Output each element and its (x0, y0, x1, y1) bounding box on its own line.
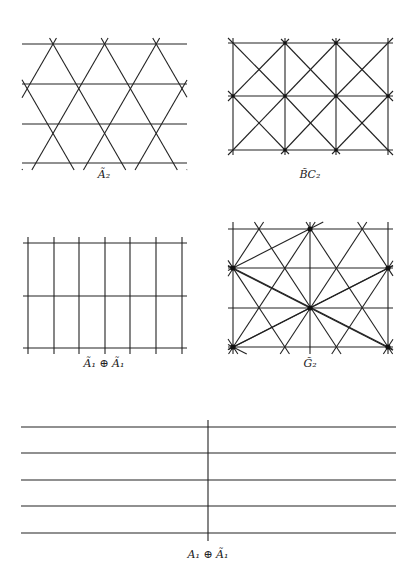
panel-g2-lattice (228, 222, 393, 354)
panel-bc2-lattice (228, 38, 393, 155)
label-bc2: B̃C₂ (300, 168, 321, 181)
panel-a1-plus-a1-lattice (23, 237, 187, 354)
label-a1-plus-a1: Ã₁ ⊕ Ã₁ (84, 357, 125, 370)
panel-a1-plus-a1-tilde-lattice (21, 420, 396, 541)
label-g2: G̃₂ (303, 357, 316, 370)
lattice-figure (0, 0, 416, 582)
panel-a2-lattice (22, 38, 187, 170)
label-a2: Ã₂ (98, 168, 110, 181)
label-a1-plus-a1-tilde: A₁ ⊕ Ã₁ (188, 548, 229, 561)
